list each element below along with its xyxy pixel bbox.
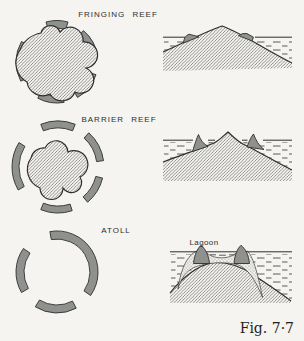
fringing-cross-section [163,26,292,71]
barrier-reef-tower-right [247,134,264,150]
fringing-plan-view [16,20,98,103]
atoll-label: ATOLL [101,226,131,235]
atoll-reef-arc-icon [35,300,76,313]
lagoon-label: Lagoon [189,238,218,247]
atoll-reef-tower-left [194,245,210,263]
atoll-cross-section: Lagoon [170,238,292,304]
barrier-reef-crescent-icon [12,143,25,190]
fringing-reef-label: FRINGING REEF [78,10,158,19]
reef-formation-figure: FRINGING REEF BARRIER REEF [0,0,304,341]
barrier-reef-label: BARRIER REEF [81,115,156,124]
atoll-reef-tower-right [234,245,250,263]
figure-canvas: FRINGING REEF BARRIER REEF [0,0,304,341]
barrier-cross-section [163,132,292,181]
barrier-reef-crescent-icon [41,121,75,131]
atoll-plan-view [16,231,98,313]
figure-caption: Fig. 7·7 [240,320,294,336]
island-plan-outline [27,141,87,200]
barrier-reef-crescent-icon [83,176,103,202]
barrier-reef-crescent-icon [84,133,103,162]
atoll-reef-arc-icon [50,231,98,296]
atoll-panel: ATOLL Lagoon [16,226,292,313]
fringing-reef-panel: FRINGING REEF [16,10,292,103]
barrier-plan-view [12,121,103,213]
atoll-reef-arc-icon [16,249,30,293]
barrier-reef-panel: BARRIER REEF [12,115,292,213]
barrier-reef-crescent-icon [41,203,72,213]
